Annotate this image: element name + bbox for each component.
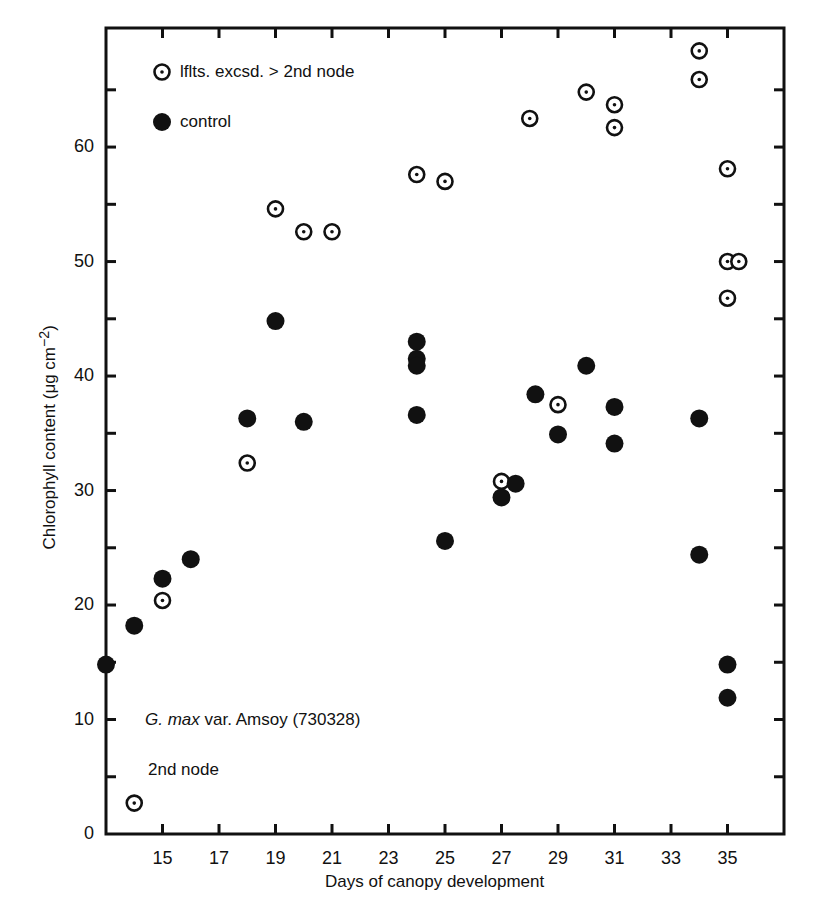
- y-axis-label: Chlorophyll content (μg cm−2): [36, 307, 61, 567]
- node-annotation: 2nd node: [148, 760, 219, 780]
- species-annotation: G. max var. Amsoy (730328): [145, 710, 360, 730]
- control-point: [690, 409, 708, 427]
- y-axis-label-superscript: −2: [36, 331, 52, 347]
- excised-point: [240, 456, 255, 471]
- control-point: [97, 656, 115, 674]
- excised-point: [127, 796, 142, 811]
- circle-dot-marker-icon: [152, 62, 172, 82]
- excised-point: [720, 291, 735, 306]
- control-point: [493, 488, 511, 506]
- x-axis-label: Days of canopy development: [325, 872, 544, 892]
- x-tick-label: 23: [369, 848, 409, 869]
- x-tick-label: 25: [425, 848, 465, 869]
- control-point: [238, 409, 256, 427]
- control-point: [526, 385, 544, 403]
- excised-point: [607, 97, 622, 112]
- y-axis-label-main: Chlorophyll content (μg cm: [40, 347, 59, 550]
- y-tick-label: 20: [54, 594, 94, 615]
- x-tick-label: 21: [312, 848, 352, 869]
- control-point: [606, 435, 624, 453]
- x-tick-label: 19: [256, 848, 296, 869]
- excised-point: [409, 167, 424, 182]
- y-axis-label-end: ): [40, 325, 59, 331]
- x-tick-label: 17: [199, 848, 239, 869]
- control-point: [408, 357, 426, 375]
- scatter-plot: [0, 0, 819, 918]
- x-tick-label: 31: [595, 848, 635, 869]
- control-point: [182, 550, 200, 568]
- excised-point: [551, 397, 566, 412]
- excised-point: [268, 201, 283, 216]
- control-point: [577, 357, 595, 375]
- control-point: [690, 546, 708, 564]
- excised-point: [720, 161, 735, 176]
- excised-point: [692, 43, 707, 58]
- x-tick-label: 35: [708, 848, 748, 869]
- excised-point: [296, 224, 311, 239]
- control-point: [719, 656, 737, 674]
- excised-point: [692, 72, 707, 87]
- control-point: [408, 406, 426, 424]
- control-point: [408, 333, 426, 351]
- control-point: [549, 425, 567, 443]
- control-point: [295, 413, 313, 431]
- x-tick-label: 27: [482, 848, 522, 869]
- legend-label-control: control: [180, 112, 231, 132]
- control-point: [154, 570, 172, 588]
- y-tick-label: 0: [54, 823, 94, 844]
- excised-point: [731, 254, 746, 269]
- y-tick-label: 60: [54, 136, 94, 157]
- legend-label-excised: lflts. excsd. > 2nd node: [180, 62, 354, 82]
- legend-item-excised: lflts. excsd. > 2nd node: [152, 62, 354, 82]
- x-tick-label: 29: [538, 848, 578, 869]
- control-point: [507, 475, 525, 493]
- excised-point: [607, 120, 622, 135]
- species-rest: var. Amsoy (730328): [200, 710, 361, 729]
- x-tick-label: 33: [651, 848, 691, 869]
- excised-point: [438, 174, 453, 189]
- control-point: [267, 312, 285, 330]
- y-tick-label: 50: [54, 251, 94, 272]
- control-point: [719, 689, 737, 707]
- control-point: [606, 398, 624, 416]
- y-tick-label: 10: [54, 709, 94, 730]
- excised-point: [155, 593, 170, 608]
- excised-point: [494, 474, 509, 489]
- excised-point: [325, 224, 340, 239]
- species-italic: G. max: [145, 710, 200, 729]
- data-points: [97, 43, 746, 810]
- control-point: [125, 617, 143, 635]
- excised-point: [579, 85, 594, 100]
- control-point: [436, 532, 454, 550]
- legend-item-control: control: [152, 112, 231, 132]
- filled-circle-marker-icon: [152, 112, 172, 132]
- excised-point: [522, 111, 537, 126]
- x-tick-label: 15: [143, 848, 183, 869]
